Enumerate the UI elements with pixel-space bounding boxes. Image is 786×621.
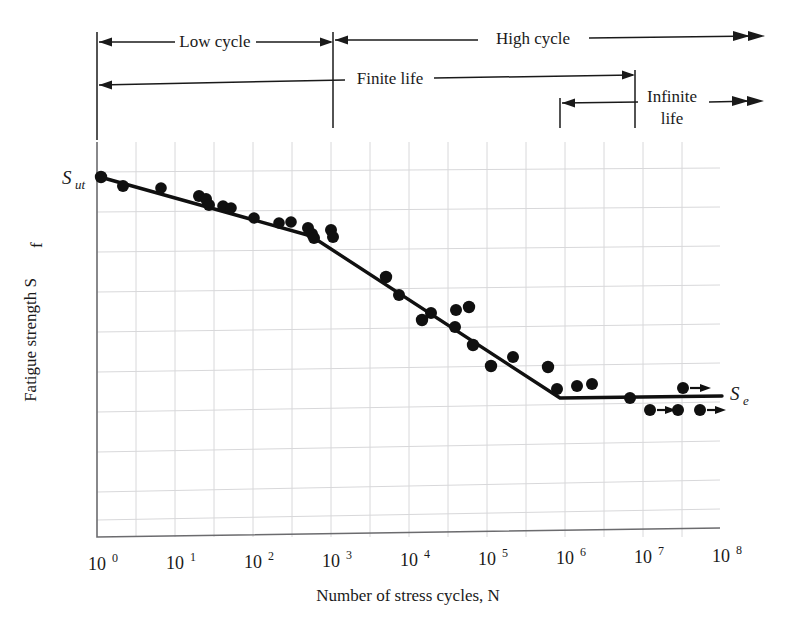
data-point xyxy=(571,380,583,392)
data-point xyxy=(273,217,285,229)
sut-label: S ut xyxy=(62,167,86,192)
data-point xyxy=(551,383,563,395)
data-point xyxy=(380,271,392,283)
y-axis-title: Fatigue strength S xyxy=(21,278,40,402)
bracket-infinite-life: Infinite life xyxy=(562,87,764,128)
x-tick-6: 10 6 xyxy=(556,545,586,568)
x-tick-8: 10 8 xyxy=(712,543,742,566)
x-tick-exponent: 6 xyxy=(580,545,586,559)
x-tick-exponent: 1 xyxy=(190,550,196,564)
x-tick-3: 10 3 xyxy=(322,548,352,571)
x-tick-exponent: 7 xyxy=(658,544,664,558)
x-tick-exponent: 8 xyxy=(736,543,742,557)
x-tick-7: 10 7 xyxy=(634,544,664,567)
x-tick-4: 10 4 xyxy=(400,547,430,570)
data-point xyxy=(285,216,297,228)
x-tick-base: 10 xyxy=(478,549,496,569)
annotation-low-cycle: Low cycle xyxy=(179,32,250,51)
runout-point xyxy=(694,404,706,416)
annotation-brackets: Low cycle High cycle Finite life xyxy=(97,29,765,140)
data-point xyxy=(393,289,405,301)
data-point xyxy=(248,212,260,224)
se-subscript: e xyxy=(743,393,749,408)
data-point xyxy=(485,360,497,372)
annotation-infinite-life-line2: life xyxy=(661,109,684,128)
runout-arrow-icon xyxy=(700,384,711,392)
data-point xyxy=(155,182,167,194)
runout-point xyxy=(644,404,656,416)
x-tick-2: 10 2 xyxy=(244,549,274,572)
x-tick-1: 10 1 xyxy=(166,550,196,573)
data-point xyxy=(463,301,475,313)
x-axis-title: Number of stress cycles, N xyxy=(316,586,500,605)
bracket-low-cycle: Low cycle xyxy=(99,32,333,51)
x-tick-exponent: 2 xyxy=(268,549,274,563)
sut-symbol: S xyxy=(62,167,72,188)
data-point xyxy=(586,378,598,390)
data-point xyxy=(203,199,215,211)
x-tick-base: 10 xyxy=(400,550,418,570)
runout-point xyxy=(677,382,689,394)
x-tick-base: 10 xyxy=(322,551,340,571)
x-tick-base: 10 xyxy=(166,553,184,573)
data-point xyxy=(225,202,237,214)
y-axis-title-group: Fatigue strength S f xyxy=(21,242,46,402)
runout-point xyxy=(672,404,684,416)
runout-points xyxy=(644,382,726,416)
x-tick-exponent: 0 xyxy=(112,551,118,565)
x-tick-base: 10 xyxy=(712,546,730,566)
x-tick-base: 10 xyxy=(88,554,106,574)
data-point xyxy=(624,392,636,404)
x-tick-5: 10 5 xyxy=(478,546,508,569)
bracket-finite-life: Finite life xyxy=(99,69,635,90)
x-tick-base: 10 xyxy=(244,552,262,572)
x-tick-base: 10 xyxy=(556,548,574,568)
sn-diagram: Low cycle High cycle Finite life xyxy=(0,0,786,621)
data-point xyxy=(416,314,428,326)
data-point xyxy=(95,171,107,183)
annotation-infinite-life-line1: Infinite xyxy=(647,87,697,106)
data-point xyxy=(308,232,320,244)
se-label: S e xyxy=(730,383,749,408)
y-axis-title-subscript: f xyxy=(27,242,46,248)
x-axis-title-group: Number of stress cycles, N xyxy=(316,586,500,605)
x-tick-exponent: 5 xyxy=(502,546,508,560)
se-symbol: S xyxy=(730,383,740,404)
data-point xyxy=(542,361,554,373)
data-point xyxy=(450,304,462,316)
data-point xyxy=(327,231,339,243)
sut-subscript: ut xyxy=(75,177,86,192)
annotation-high-cycle: High cycle xyxy=(496,29,570,48)
bracket-high-cycle: High cycle xyxy=(335,29,765,48)
data-points xyxy=(95,171,636,404)
sn-curve xyxy=(100,177,722,398)
runout-arrow-icon xyxy=(715,406,726,414)
x-tick-base: 10 xyxy=(634,547,652,567)
data-point xyxy=(449,321,461,333)
x-axis-tick-labels: 10 0 10 1 10 2 10 3 10 4 10 5 xyxy=(88,543,742,574)
x-tick-0: 10 0 xyxy=(88,551,118,574)
data-point xyxy=(467,339,479,351)
x-tick-exponent: 3 xyxy=(346,548,352,562)
data-point xyxy=(117,180,129,192)
data-point xyxy=(507,351,519,363)
annotation-finite-life: Finite life xyxy=(357,69,424,88)
figure-container: Low cycle High cycle Finite life xyxy=(0,0,786,621)
x-tick-exponent: 4 xyxy=(424,547,430,561)
